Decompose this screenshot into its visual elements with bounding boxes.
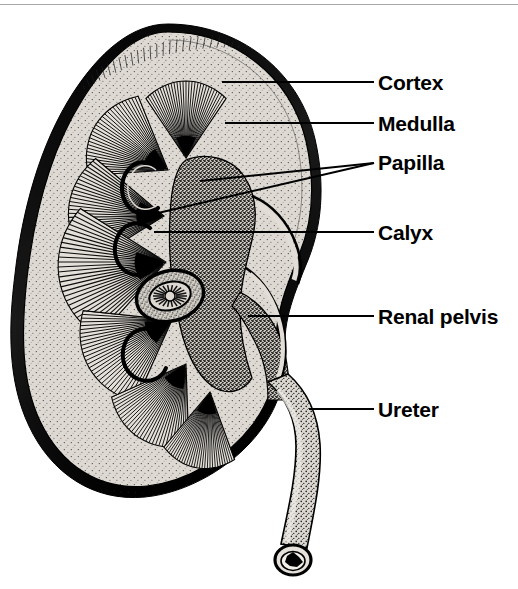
capsule-hatch-tick xyxy=(271,463,275,471)
capsule-hatch-tick xyxy=(406,208,418,210)
capsule-hatch-tick xyxy=(383,142,395,148)
capsule-hatch-tick xyxy=(385,337,398,341)
capsule-hatch-tick xyxy=(381,343,394,348)
capsule-hatch-tick xyxy=(326,73,334,82)
capsule-hatch-tick xyxy=(0,439,7,448)
capsule-hatch-tick xyxy=(245,474,249,484)
label-cortex: Cortex xyxy=(378,72,443,93)
capsule-hatch-tick xyxy=(48,474,52,483)
label-ureter: Ureter xyxy=(378,399,439,420)
capsule-hatch-tick xyxy=(11,142,21,150)
capsule-hatch-tick xyxy=(232,479,236,490)
capsule-hatch-tick xyxy=(23,129,32,138)
capsule-hatch-tick xyxy=(260,42,264,51)
capsule-hatch-tick xyxy=(343,400,354,408)
capsule-hatch-tick xyxy=(52,101,57,109)
capsule-hatch-tick xyxy=(170,41,171,55)
capsule-hatch-tick xyxy=(219,482,222,494)
capsule-hatch-tick xyxy=(258,469,262,478)
capsule-hatch-tick xyxy=(347,395,358,403)
capsule-hatch-tick xyxy=(379,135,391,142)
label-calyx: Calyx xyxy=(378,222,433,243)
capsule-hatch-tick xyxy=(61,94,66,102)
capsule-hatch-tick xyxy=(378,350,391,355)
capsule-hatch-tick xyxy=(358,104,369,112)
capsule-hatch-tick xyxy=(7,146,18,154)
capsule-hatch-tick xyxy=(404,201,416,204)
capsule-hatch-tick xyxy=(27,125,36,134)
capsule-hatch-tick xyxy=(319,425,328,434)
capsule-hatch-tick xyxy=(348,93,358,102)
capsule-hatch-tick xyxy=(407,277,417,278)
capsule-hatch-tick xyxy=(329,416,338,425)
capsule-hatch-tick xyxy=(171,491,172,505)
capsule-hatch-tick xyxy=(205,486,208,499)
capsule-hatch-tick xyxy=(251,472,255,482)
capsule-hatch-tick xyxy=(288,452,293,460)
capsule-hatch-tick xyxy=(5,444,12,453)
capsule-hatch-tick xyxy=(267,43,271,52)
capsule-hatch-tick xyxy=(407,216,418,218)
kidney-body xyxy=(0,24,420,575)
capsule-hatch-tick xyxy=(398,178,411,182)
capsule-hatch-tick xyxy=(388,331,400,335)
capsule-hatch-tick xyxy=(288,51,293,59)
capsule-hatch-tick xyxy=(274,46,279,54)
capsule-hatch-tick xyxy=(355,384,367,391)
capsule-hatch-tick xyxy=(0,160,9,167)
kidney-diagram-figure: Cortex Medulla Papilla Calyx Renal pelvi… xyxy=(0,0,518,589)
capsule-hatch-tick xyxy=(410,247,420,248)
capsule-hatch-tick xyxy=(324,421,333,430)
capsule-hatch-tick xyxy=(403,291,414,292)
capsule-hatch-tick xyxy=(54,476,58,485)
capsule-hatch-tick xyxy=(264,466,268,475)
capsule-hatch-tick xyxy=(238,476,242,487)
capsule-hatch-tick xyxy=(61,479,65,489)
capsule-hatch-tick xyxy=(212,484,215,496)
capsule-hatch-tick xyxy=(314,64,321,73)
capsule-hatch-tick xyxy=(277,460,282,468)
capsule-hatch-tick xyxy=(0,169,2,176)
capsule-hatch-tick xyxy=(320,68,328,77)
capsule-hatch-tick xyxy=(401,298,412,300)
capsule-hatch-tick xyxy=(150,46,151,60)
capsule-hatch-tick xyxy=(353,98,363,106)
capsule-hatch-tick xyxy=(375,356,388,362)
capsule-hatch-tick xyxy=(56,98,61,106)
capsule-hatch-tick xyxy=(191,488,193,501)
capsule-hatch-tick xyxy=(253,40,257,50)
capsule-hatch-tick xyxy=(16,454,22,462)
label-medulla: Medulla xyxy=(378,113,455,134)
capsule-hatch-tick xyxy=(295,54,300,62)
capsule-hatch-tick xyxy=(4,151,15,159)
capsule-hatch-tick xyxy=(337,82,346,91)
capsule-hatch-tick xyxy=(66,90,71,98)
capsule-hatch-tick xyxy=(405,284,415,285)
capsule-hatch-tick xyxy=(351,390,362,398)
capsule-hatch-tick xyxy=(43,109,49,118)
capsule-hatch-tick xyxy=(39,113,46,122)
capsule-hatch-tick xyxy=(225,481,228,493)
capsule-hatch-tick xyxy=(301,57,307,65)
capsule-hatch-tick xyxy=(35,467,40,475)
capsule-hatch-tick xyxy=(402,193,414,196)
capsule-hatch-tick xyxy=(198,487,200,500)
capsule-hatch-tick xyxy=(68,481,72,491)
capsule-hatch-tick xyxy=(363,373,375,380)
calyx-rosette-center xyxy=(165,291,175,301)
capsule-hatch-tick xyxy=(0,164,5,171)
capsule-hatch-tick xyxy=(28,463,33,471)
capsule-hatch-tick xyxy=(75,483,79,494)
capsule-hatch-tick xyxy=(400,186,412,190)
capsule-hatch-tick xyxy=(363,110,374,118)
label-papilla: Papilla xyxy=(378,152,444,173)
capsule-hatch-tick xyxy=(343,87,353,96)
capsule-hatch-tick xyxy=(283,456,288,464)
capsule-hatch-tick xyxy=(359,379,371,386)
capsule-hatch-tick xyxy=(0,155,12,163)
label-renal-pelvis: Renal pelvis xyxy=(378,306,498,327)
capsule-hatch-tick xyxy=(10,449,16,457)
capsule-hatch-tick xyxy=(15,138,25,147)
capsule-hatch-tick xyxy=(334,411,344,420)
capsule-hatch-tick xyxy=(308,61,314,69)
